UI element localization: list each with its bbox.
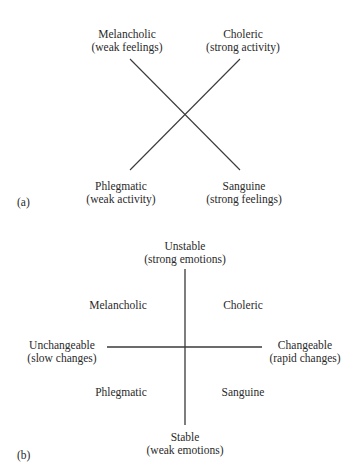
panel-a-tag: (a)	[17, 196, 30, 208]
axis-left-label: Unchangeable (slow changes)	[27, 339, 96, 365]
quadrant-phlegmatic: Phlegmatic	[95, 386, 147, 399]
axis-desc: (slow changes)	[27, 352, 96, 365]
label-desc: (strong feelings)	[206, 193, 282, 206]
axis-name: Unchangeable	[27, 339, 96, 352]
label-a-melancholic: Melancholic (weak feelings)	[91, 28, 162, 54]
axis-desc: (strong emotions)	[144, 253, 225, 266]
axis-name: Changeable	[269, 339, 340, 352]
label-name: Melancholic	[91, 28, 162, 41]
label-desc: (strong activity)	[206, 41, 280, 54]
panel-b-tag: (b)	[17, 449, 30, 461]
axis-name: Stable	[147, 431, 224, 444]
axis-bottom-label: Stable (weak emotions)	[147, 431, 224, 457]
axis-desc: (weak emotions)	[147, 444, 224, 457]
diagram-lines	[0, 0, 361, 475]
label-a-phlegmatic: Phlegmatic (weak activity)	[86, 180, 155, 206]
label-desc: (weak feelings)	[91, 41, 162, 54]
label-name: Phlegmatic	[86, 180, 155, 193]
label-name: Sanguine	[206, 180, 282, 193]
axis-right-label: Changeable (rapid changes)	[269, 339, 340, 365]
label-a-choleric: Choleric (strong activity)	[206, 28, 280, 54]
axis-top-label: Unstable (strong emotions)	[144, 240, 225, 266]
axis-name: Unstable	[144, 240, 225, 253]
quadrant-melancholic: Melancholic	[89, 299, 146, 312]
label-desc: (weak activity)	[86, 193, 155, 206]
quadrant-choleric: Choleric	[223, 299, 263, 312]
axis-desc: (rapid changes)	[269, 352, 340, 365]
label-name: Choleric	[206, 28, 280, 41]
quadrant-sanguine: Sanguine	[222, 386, 265, 399]
label-a-sanguine: Sanguine (strong feelings)	[206, 180, 282, 206]
